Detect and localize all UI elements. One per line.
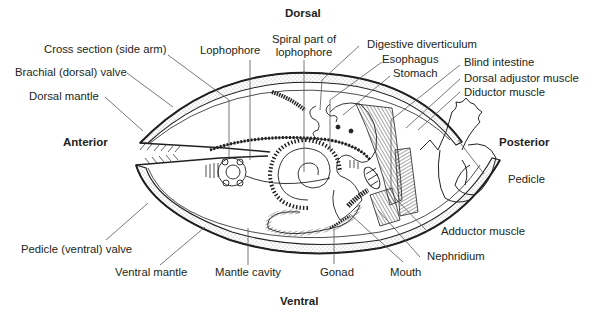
label-cross-section: Cross section (side arm) [44, 43, 166, 56]
label-spiral-line2: lophophore [272, 46, 336, 59]
label-digestive-diverticulum: Digestive diverticulum [367, 38, 477, 51]
label-lophophore: Lophophore [200, 44, 260, 57]
label-dorsal-mantle: Dorsal mantle [29, 90, 99, 103]
label-pedicle: Pedicle [508, 173, 545, 186]
label-pedicle-valve: Pedicle (ventral) valve [21, 243, 132, 256]
digestive-diverticulum [272, 92, 337, 140]
nephridium [361, 165, 383, 192]
label-dorsal-adjustor: Dorsal adjustor muscle [464, 72, 579, 85]
label-esophagus: Esophagus [382, 53, 439, 66]
lophophore-side-arm [206, 158, 330, 186]
label-mantle-cavity: Mantle cavity [215, 266, 281, 279]
muscle-bands [356, 104, 418, 226]
label-anterior: Anterior [63, 136, 108, 148]
label-ventral: Ventral [280, 295, 318, 307]
label-brachial-valve: Brachial (dorsal) valve [15, 66, 127, 79]
label-mouth: Mouth [390, 266, 421, 279]
label-posterior: Posterior [499, 136, 550, 148]
label-stomach: Stomach [393, 67, 438, 80]
label-adductor: Adductor muscle [441, 225, 525, 238]
label-diductor: Diductor muscle [464, 86, 545, 99]
label-nephridium: Nephridium [427, 250, 485, 263]
label-spiral-line1: Spiral part of [272, 33, 336, 46]
label-gonad: Gonad [320, 266, 354, 279]
label-ventral-mantle: Ventral mantle [115, 266, 187, 279]
label-blind-intestine: Blind intestine [464, 56, 534, 69]
label-dorsal: Dorsal [285, 7, 321, 19]
label-spiral-lophophore: Spiral part of lophophore [272, 33, 336, 59]
